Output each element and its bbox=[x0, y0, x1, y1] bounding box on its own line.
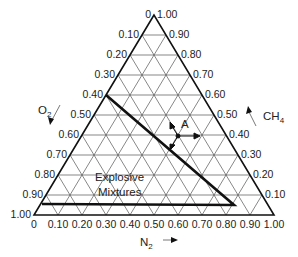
tick-label: 0.70 bbox=[47, 148, 68, 160]
svg-text:O2: O2 bbox=[38, 104, 52, 119]
tick-label: 0.40 bbox=[120, 218, 141, 230]
tick-label: 0.50 bbox=[71, 108, 92, 120]
tick-label: 0.80 bbox=[216, 218, 237, 230]
tick-label: 0.50 bbox=[217, 108, 238, 120]
tick-label: 0.30 bbox=[241, 148, 262, 160]
ch4-axis-label: CH4 bbox=[246, 106, 285, 126]
tick-label: 0.60 bbox=[59, 128, 80, 140]
tick-label: 0.70 bbox=[193, 68, 214, 80]
tick-label: 0.30 bbox=[96, 218, 117, 230]
svg-text:CH4: CH4 bbox=[263, 110, 285, 125]
o2-axis-label: O2 bbox=[38, 104, 60, 125]
tick-label: 0.10 bbox=[119, 28, 140, 40]
tick-label: 0.20 bbox=[253, 168, 274, 180]
svg-text:N2: N2 bbox=[140, 236, 153, 251]
tick-label: 1.00 bbox=[157, 8, 178, 20]
tick-label: 0.90 bbox=[23, 188, 44, 200]
arrow-up-icon bbox=[246, 106, 252, 114]
tick-label: 0.10 bbox=[48, 218, 69, 230]
tick-label: 0.20 bbox=[107, 48, 128, 60]
tick-label: 0.30 bbox=[95, 68, 116, 80]
tick-label: 1.00 bbox=[11, 208, 32, 220]
tick-label: 0.60 bbox=[205, 88, 226, 100]
tick-label: 0.80 bbox=[181, 48, 202, 60]
tick-label: 0.50 bbox=[144, 218, 165, 230]
n2-axis-label: N2 bbox=[140, 236, 178, 251]
point-a-label: A bbox=[181, 118, 189, 130]
tick-label: 1.00 bbox=[264, 218, 285, 230]
tick-label: 0 bbox=[31, 218, 37, 230]
tick-label: 0.90 bbox=[169, 28, 190, 40]
ternary-diagram: A 00.100.200.300.400.500.600.700.800.901… bbox=[0, 0, 298, 257]
region-label: Explosive bbox=[95, 171, 144, 183]
region-label: Mixtures bbox=[98, 186, 142, 198]
tick-label: 0.70 bbox=[192, 218, 213, 230]
tick-label: 0.80 bbox=[35, 168, 56, 180]
tick-label: 0.10 bbox=[265, 188, 286, 200]
arrow-right-icon bbox=[171, 237, 178, 243]
grid-lines bbox=[46, 35, 262, 215]
tick-label: 0.40 bbox=[83, 88, 104, 100]
tick-label: 0.60 bbox=[168, 218, 189, 230]
tick-label: 0.40 bbox=[229, 128, 250, 140]
tick-label: 0.90 bbox=[240, 218, 261, 230]
tick-label: 0.20 bbox=[72, 218, 93, 230]
tick-label: 0 bbox=[145, 8, 151, 20]
